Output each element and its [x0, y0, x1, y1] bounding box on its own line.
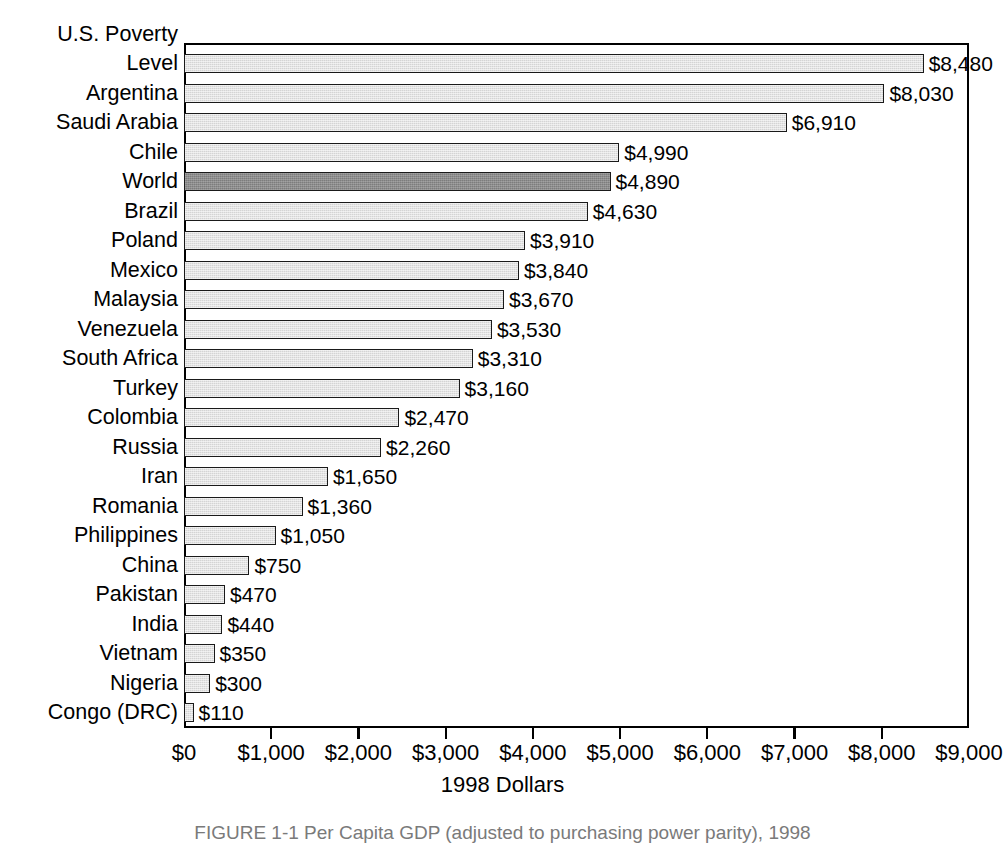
- bar[interactable]: [184, 290, 504, 309]
- bar-value-label: $3,530: [492, 315, 561, 345]
- category-label: Turkey: [113, 374, 178, 404]
- bar[interactable]: [184, 703, 194, 722]
- bar-row-inner: $4,990: [184, 138, 969, 168]
- bar-row-inner: $8,480: [184, 49, 969, 79]
- bar-value-label: $4,990: [619, 138, 688, 168]
- category-label: Colombia: [87, 403, 178, 433]
- bar-row-inner: $1,050: [184, 521, 969, 551]
- bar-value-label: $3,160: [460, 374, 529, 404]
- bar-row: Brazil$4,630: [0, 197, 1005, 227]
- bar[interactable]: [184, 113, 787, 132]
- bar-row-inner: $3,530: [184, 315, 969, 345]
- x-axis-tick-label: $7,000: [761, 740, 828, 766]
- bar-row-inner: $2,470: [184, 403, 969, 433]
- bar-row: India$440: [0, 610, 1005, 640]
- bar-row-inner: $350: [184, 639, 969, 669]
- bar-row-inner: $300: [184, 669, 969, 699]
- bar-value-label: $1,360: [303, 492, 372, 522]
- bar[interactable]: [184, 615, 222, 634]
- x-axis-tick-label: $3,000: [412, 740, 479, 766]
- bar[interactable]: [184, 674, 210, 693]
- category-label: Chile: [129, 138, 178, 168]
- bar-row-inner: $110: [184, 698, 969, 728]
- category-label: Brazil: [124, 197, 178, 227]
- category-label: Russia: [112, 433, 178, 463]
- bar-row: Vietnam$350: [0, 639, 1005, 669]
- category-label: Nigeria: [110, 669, 178, 699]
- category-label-continued: U.S. Poverty: [57, 20, 178, 50]
- bar-row: Romania$1,360: [0, 492, 1005, 522]
- bar[interactable]: [184, 467, 328, 486]
- bar-row: China$750: [0, 551, 1005, 581]
- x-axis-tick-label: $0: [172, 740, 196, 766]
- x-axis-tick-label: $2,000: [325, 740, 392, 766]
- bar[interactable]: [184, 202, 588, 221]
- bar-value-label: $3,840: [519, 256, 588, 286]
- bar-row: Russia$2,260: [0, 433, 1005, 463]
- x-axis-tick-label: $8,000: [848, 740, 915, 766]
- bar-row: Poland$3,910: [0, 226, 1005, 256]
- category-label: Congo (DRC): [48, 698, 178, 728]
- bar[interactable]: [184, 349, 473, 368]
- bar-row-inner: $3,310: [184, 344, 969, 374]
- bar-value-label: $470: [225, 580, 277, 610]
- bar-value-label: $2,470: [399, 403, 468, 433]
- category-label: China: [122, 551, 178, 581]
- category-label: Mexico: [110, 256, 178, 286]
- x-axis-tick: [357, 728, 359, 739]
- bar-row: Congo (DRC)$110: [0, 698, 1005, 728]
- x-axis-tick: [270, 728, 272, 739]
- bar-row-inner: $3,910: [184, 226, 969, 256]
- bar-value-label: $4,890: [611, 167, 680, 197]
- bar-value-label: $440: [222, 610, 274, 640]
- x-axis-tick-label: $6,000: [674, 740, 741, 766]
- bar[interactable]: [184, 172, 611, 191]
- bar[interactable]: [184, 54, 924, 73]
- category-label: Venezuela: [78, 315, 178, 345]
- bar-value-label: $3,910: [525, 226, 594, 256]
- x-axis-tick: [445, 728, 447, 739]
- bar-row: Level$8,480: [0, 49, 1005, 79]
- bar[interactable]: [184, 497, 303, 516]
- bar[interactable]: [184, 644, 215, 663]
- bar-row: Malaysia$3,670: [0, 285, 1005, 315]
- bar-value-label: $110: [194, 698, 244, 728]
- bar-row: Nigeria$300: [0, 669, 1005, 699]
- bar[interactable]: [184, 320, 492, 339]
- bar-value-label: $750: [249, 551, 301, 581]
- bar-value-label: $2,260: [381, 433, 450, 463]
- bar[interactable]: [184, 143, 619, 162]
- bar[interactable]: [184, 84, 884, 103]
- bar[interactable]: [184, 585, 225, 604]
- bar-row-inner: $4,890: [184, 167, 969, 197]
- x-axis-tick-label: $5,000: [586, 740, 653, 766]
- bar-value-label: $1,650: [328, 462, 397, 492]
- bar[interactable]: [184, 408, 399, 427]
- x-axis-tick-label: $1,000: [238, 740, 305, 766]
- bar[interactable]: [184, 379, 460, 398]
- bar[interactable]: [184, 556, 249, 575]
- bar-value-label: $4,630: [588, 197, 657, 227]
- bar-value-label: $300: [210, 669, 262, 699]
- bar[interactable]: [184, 261, 519, 280]
- bar-row: Chile$4,990: [0, 138, 1005, 168]
- bar-row: Mexico$3,840: [0, 256, 1005, 286]
- x-axis-tick-label: $4,000: [499, 740, 566, 766]
- category-label: Poland: [111, 226, 178, 256]
- x-axis-tick: [706, 728, 708, 739]
- bar-value-label: $350: [215, 639, 267, 669]
- category-label: Pakistan: [96, 580, 178, 610]
- bar-row: Pakistan$470: [0, 580, 1005, 610]
- bar[interactable]: [184, 526, 276, 545]
- category-label: World: [122, 167, 178, 197]
- bar-row-inner: $3,670: [184, 285, 969, 315]
- category-label: Level: [127, 49, 178, 79]
- category-label: India: [131, 610, 178, 640]
- bar[interactable]: [184, 231, 525, 250]
- bar-row-inner: $440: [184, 610, 969, 640]
- bar[interactable]: [184, 438, 381, 457]
- bar-row: Colombia$2,470: [0, 403, 1005, 433]
- bar-row-inner: $750: [184, 551, 969, 581]
- bar-row-inner: $8,030: [184, 79, 969, 109]
